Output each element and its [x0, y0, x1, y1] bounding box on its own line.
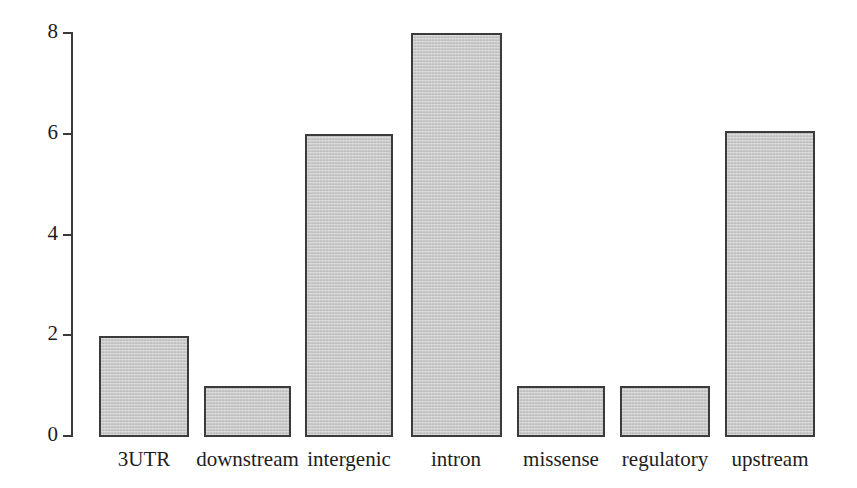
y-tick-label-2: 2 [24, 323, 58, 344]
bar-3utr [99, 336, 189, 437]
y-tick-label-0: 0 [24, 424, 58, 445]
bar-chart: 0 2 4 6 8 3UTR downstream intergenic int… [0, 0, 857, 488]
bar-intergenic [305, 134, 393, 437]
x-label-intron: intron [401, 446, 511, 472]
bar-intron [411, 33, 502, 437]
bar-downstream [204, 386, 291, 437]
bar-regulatory [620, 386, 710, 437]
x-label-upstream: upstream [712, 446, 828, 472]
bar-upstream [725, 131, 815, 437]
plot-area: 0 2 4 6 8 3UTR downstream intergenic int… [0, 0, 857, 488]
y-tick-label-8: 8 [24, 21, 58, 42]
y-tick-2 [63, 334, 72, 336]
x-label-regulatory: regulatory [602, 446, 728, 472]
x-label-intergenic: intergenic [289, 446, 409, 472]
y-tick-label-6: 6 [24, 122, 58, 143]
y-tick-label-4: 4 [24, 223, 58, 244]
y-tick-6 [63, 133, 72, 135]
y-tick-4 [63, 234, 72, 236]
bar-missense [517, 386, 605, 437]
y-tick-8 [63, 32, 72, 34]
y-tick-0 [63, 435, 72, 437]
